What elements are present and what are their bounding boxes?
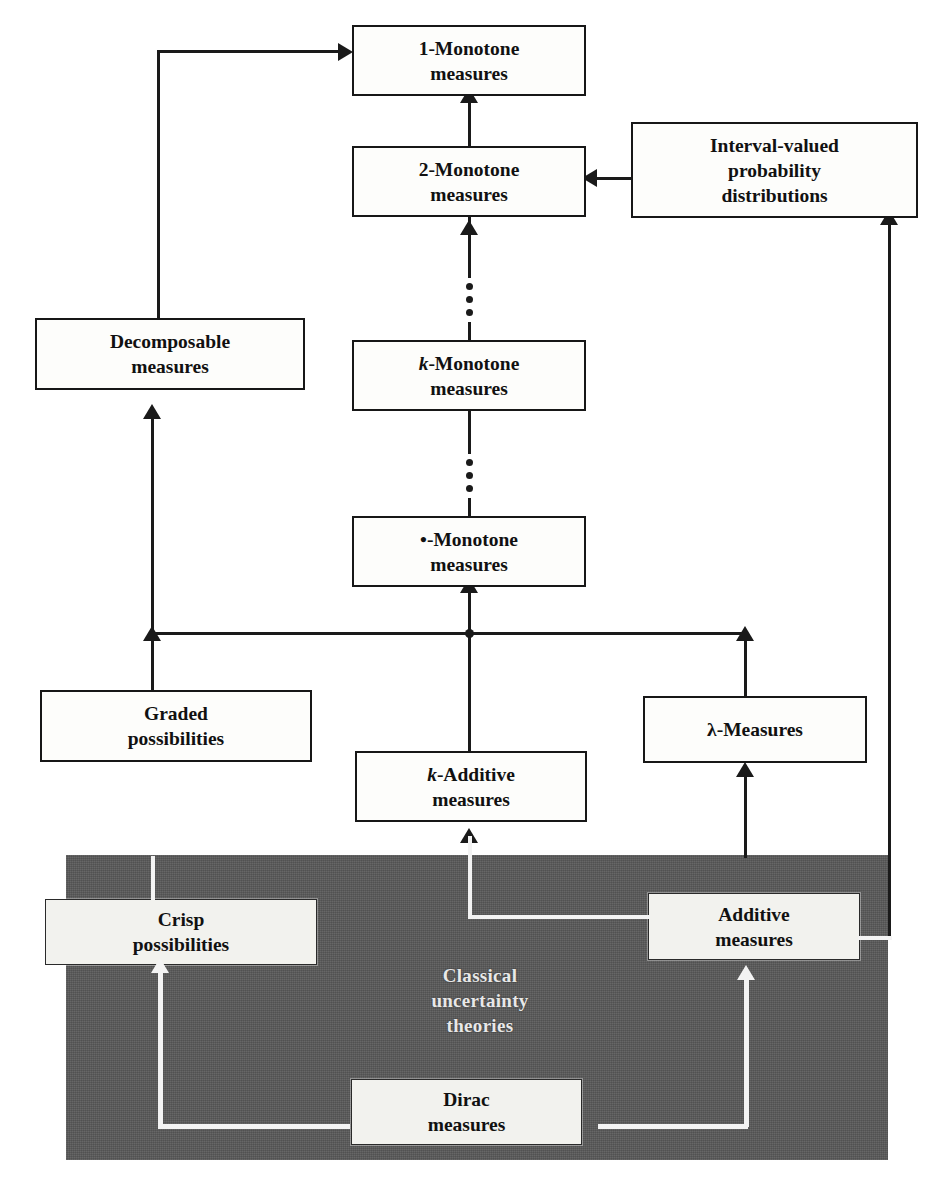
edge-kmonotone-lower-segment (468, 322, 471, 340)
edge-dirac-to-additive-riser (744, 975, 749, 1127)
edge-interval-to-2monotone (597, 177, 632, 180)
edge-bus-right-riser (744, 632, 747, 696)
node-dirac-line-2: measures (428, 1114, 506, 1135)
ellipsis-infmonotone-to-kmonotone (466, 459, 473, 492)
node-graded-line-2: possibilities (128, 728, 224, 749)
arrowhead-additive-bottom (737, 965, 755, 980)
region-caption-line-2: uncertainty (431, 990, 528, 1011)
edge-graded-to-decomposable (151, 412, 154, 690)
edge-additive-to-kadditive-vertical (468, 836, 472, 918)
node-lambda-prefix: λ (707, 719, 717, 740)
node-lambda-measures[interactable]: λ-Measures (643, 696, 867, 763)
edge-infmonotone-lower-segment (468, 498, 471, 516)
node-2-monotone-line-1: 2-Monotone (419, 159, 520, 180)
node-k-monotone-line-2: measures (430, 378, 508, 399)
node-1-monotone-line-1: 1-Monotone (419, 38, 520, 59)
node-1-monotone-line-2: measures (430, 63, 508, 84)
node-decomposable-line-2: measures (131, 356, 209, 377)
edge-bus-to-infmonotone (468, 586, 471, 634)
bus-junction-dot (465, 629, 474, 638)
node-decomposable-line-1: Decomposable (110, 331, 230, 352)
node-decomposable-measures[interactable]: Decomposable measures (35, 318, 305, 390)
edge-decomposable-riser (157, 50, 160, 319)
node-k-monotone-measures[interactable]: k-Monotone measures (352, 340, 586, 411)
edge-additive-to-kadditive-horizontal (468, 915, 650, 919)
node-2-monotone-measures[interactable]: 2-Monotone measures (352, 146, 586, 217)
node-k-monotone-prefix: k (419, 353, 429, 374)
node-graded-line-1: Graded (144, 703, 208, 724)
arrowhead-graded-top (143, 626, 161, 641)
node-crisp-line-1: Crisp (158, 909, 205, 930)
node-infinity-monotone-line-1: -Monotone (427, 529, 518, 550)
diagram-canvas: Classical uncertainty theories (0, 0, 937, 1183)
arrowhead-2monotone-bottom (460, 220, 478, 235)
edge-kadditive-to-bus (468, 633, 471, 751)
node-interval-valued-line-3: distributions (721, 185, 827, 206)
node-dirac-line-1: Dirac (443, 1089, 490, 1110)
classical-uncertainty-caption: Classical uncertainty theories (370, 963, 590, 1038)
edge-additive-right-stub (858, 936, 892, 940)
node-interval-valued-probability-distributions[interactable]: Interval-valued probability distribution… (631, 122, 918, 218)
edge-decomposable-horizontal (157, 50, 340, 53)
node-k-additive-line-2: measures (432, 789, 510, 810)
node-infinity-monotone-prefix: • (420, 529, 427, 550)
arrowhead-crisp-bottom (151, 958, 169, 973)
node-dirac-measures[interactable]: Dirac measures (351, 1079, 582, 1145)
node-k-additive-line-1: -Additive (437, 764, 515, 785)
arrowhead-decomposable-bottom (143, 404, 161, 419)
node-graded-possibilities[interactable]: Graded possibilities (40, 690, 312, 762)
edge-additive-to-interval-riser (888, 218, 891, 938)
edge-dirac-left-horizontal (158, 1124, 350, 1129)
node-1-monotone-measures[interactable]: 1-Monotone measures (352, 25, 586, 96)
edge-additive-to-lambda (744, 770, 747, 858)
edge-dirac-right-horizontal (598, 1124, 748, 1129)
arrowhead-1monotone-left (338, 43, 353, 61)
node-additive-measures[interactable]: Additive measures (648, 893, 860, 960)
edge-crisp-top-stub (151, 856, 155, 900)
node-infinity-monotone-line-2: measures (430, 554, 508, 575)
node-lambda-line-1: -Measures (717, 719, 803, 740)
node-interval-valued-line-1: Interval-valued (710, 135, 839, 156)
region-caption-line-3: theories (447, 1015, 514, 1036)
arrowhead-lambda-top (736, 626, 754, 641)
node-k-additive-prefix: k (427, 764, 437, 785)
node-additive-line-2: measures (715, 929, 793, 950)
node-crisp-line-2: possibilities (133, 934, 229, 955)
arrowhead-lambda-bottom (736, 762, 754, 777)
node-infinity-monotone-measures[interactable]: •-Monotone measures (352, 516, 586, 587)
node-crisp-possibilities[interactable]: Crisp possibilities (45, 899, 317, 965)
edge-dirac-to-crisp-riser (158, 968, 163, 1128)
region-caption-line-1: Classical (443, 965, 517, 986)
node-2-monotone-line-2: measures (430, 184, 508, 205)
edge-2monotone-to-1monotone (468, 96, 471, 146)
node-k-monotone-line-1: -Monotone (428, 353, 519, 374)
node-additive-line-1: Additive (718, 904, 790, 925)
edge-horizontal-bus (152, 632, 748, 635)
node-k-additive-measures[interactable]: k-Additive measures (355, 751, 587, 822)
ellipsis-kmonotone-to-2monotone (466, 283, 473, 316)
node-interval-valued-line-2: probability (728, 160, 821, 181)
